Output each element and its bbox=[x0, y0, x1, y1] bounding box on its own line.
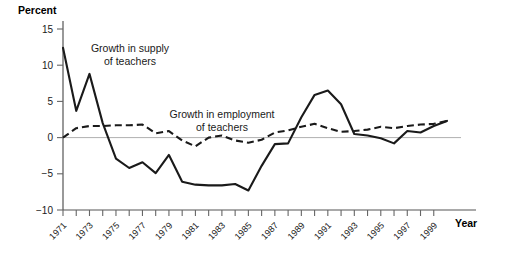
chart-annotations: Growth in supplyof teachersGrowth in emp… bbox=[91, 42, 275, 133]
x-axis-title: Year bbox=[455, 217, 477, 229]
y-tick-label: −10 bbox=[36, 205, 53, 216]
x-tick-label: 1985 bbox=[233, 220, 254, 241]
x-axis-group: 1971197319751977197919811983198519871989… bbox=[47, 210, 476, 242]
x-tick-label: 1989 bbox=[286, 220, 307, 241]
y-tick-label: 10 bbox=[42, 60, 54, 71]
x-tick-marks bbox=[63, 210, 434, 216]
y-tick-labels: 151050−5−10 bbox=[36, 24, 53, 216]
employment-annotation: Growth in employmentof teachers bbox=[169, 108, 274, 133]
x-tick-label: 1995 bbox=[365, 220, 386, 241]
x-tick-label: 1999 bbox=[418, 220, 439, 241]
x-tick-label: 1987 bbox=[259, 220, 280, 241]
x-tick-label: 1975 bbox=[100, 220, 121, 241]
y-tick-label: −5 bbox=[42, 168, 54, 179]
x-tick-labels: 1971197319751977197919811983198519871989… bbox=[47, 220, 439, 241]
teacher-growth-line-chart: 151050−5−10 1971197319751977197919811983… bbox=[0, 0, 513, 253]
y-tick-label: 5 bbox=[47, 96, 53, 107]
y-tick-label: 15 bbox=[42, 24, 54, 35]
y-tick-label: 0 bbox=[47, 132, 53, 143]
chart-container: 151050−5−10 1971197319751977197919811983… bbox=[0, 0, 513, 253]
x-tick-label: 1973 bbox=[74, 220, 95, 241]
x-tick-label: 1983 bbox=[206, 220, 227, 241]
x-tick-label: 1977 bbox=[127, 220, 148, 241]
x-tick-label: 1993 bbox=[338, 220, 359, 241]
annotation-line: of teachers bbox=[104, 55, 156, 67]
x-tick-label: 1991 bbox=[312, 220, 333, 241]
annotation-line: of teachers bbox=[196, 121, 248, 133]
y-tick-marks bbox=[57, 29, 63, 210]
supply-annotation: Growth in supplyof teachers bbox=[91, 42, 170, 67]
x-tick-label: 1971 bbox=[47, 220, 68, 241]
x-tick-label: 1997 bbox=[391, 220, 412, 241]
x-tick-label: 1981 bbox=[180, 220, 201, 241]
y-axis-group: 151050−5−10 bbox=[36, 21, 63, 216]
annotation-line: Growth in supply bbox=[91, 42, 170, 54]
x-tick-label: 1979 bbox=[153, 220, 174, 241]
annotation-line: Growth in employment bbox=[169, 108, 274, 120]
y-axis-title: Percent bbox=[18, 4, 57, 16]
